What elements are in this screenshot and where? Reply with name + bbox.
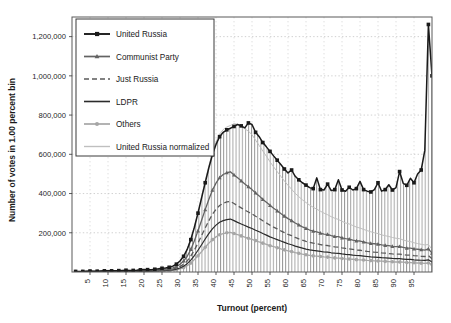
x-tick-label: 75 — [335, 279, 344, 287]
x-tick-label: 90 — [389, 279, 398, 287]
x-tick-label: 10 — [101, 279, 110, 287]
legend-item-label: United Russia normalized — [116, 143, 210, 152]
x-tick-label: 55 — [263, 279, 272, 287]
x-tick-label: 30 — [173, 279, 182, 287]
legend-swatch-marker — [95, 32, 99, 36]
x-tick-label: 20 — [137, 279, 146, 287]
y-tick-label: 1,200,000 — [32, 32, 66, 41]
x-tick-label: 95 — [407, 279, 416, 287]
legend-item-label: Just Russia — [116, 75, 159, 84]
x-tick-label: 25 — [155, 279, 164, 287]
x-axis-title: Turnout (percent) — [217, 303, 287, 313]
x-tick-label: 60 — [281, 279, 290, 287]
y-tick-label: 400,000 — [39, 189, 66, 198]
legend-swatch-marker — [95, 122, 99, 126]
legend-item-label: Communist Party — [116, 53, 180, 62]
x-tick-label: 40 — [209, 279, 218, 287]
legend-item-label: United Russia — [116, 30, 167, 39]
y-tick-label: 1,000,000 — [32, 72, 66, 81]
legend-box — [76, 19, 214, 156]
x-tick-label: 35 — [191, 279, 200, 287]
x-tick-label: 50 — [245, 279, 254, 287]
y-tick-label: 200,000 — [39, 229, 66, 238]
x-tick-label: 80 — [353, 279, 362, 287]
x-tick-label: 65 — [299, 279, 308, 287]
turnout-votes-line-chart: 5101520253035404550556065707580859095 20… — [0, 0, 451, 323]
y-axis-title: Number of votes in 1.00 percent bin — [7, 78, 17, 222]
chart-root: 5101520253035404550556065707580859095 20… — [0, 0, 451, 323]
x-tick-label: 70 — [317, 279, 326, 287]
legend-item-label: LDPR — [116, 98, 138, 107]
x-tick-label: 15 — [119, 279, 128, 287]
y-tick-label: 600,000 — [39, 150, 66, 159]
x-tick-label: 85 — [371, 279, 380, 287]
y-tick-label: 800,000 — [39, 111, 66, 120]
chart-legend[interactable]: United RussiaCommunist PartyJust RussiaL… — [76, 19, 214, 156]
x-tick-label: 5 — [83, 279, 92, 283]
legend-item-label: Others — [116, 120, 141, 129]
x-tick-label: 45 — [227, 279, 236, 287]
